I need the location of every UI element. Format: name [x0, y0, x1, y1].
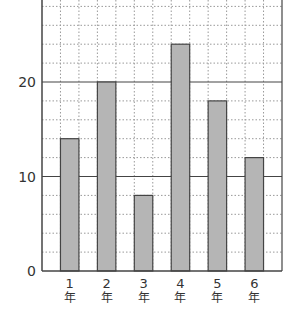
- y-tick-label: 0: [27, 263, 36, 279]
- x-tick-label-unit: 年: [101, 291, 113, 305]
- y-tick-labels: 01020: [18, 74, 36, 279]
- x-tick-label-number: 6: [250, 276, 258, 291]
- bar-chart: 01020 1年2年3年4年5年6年: [0, 0, 295, 317]
- x-tick-label-number: 3: [139, 276, 147, 291]
- y-tick-label: 10: [18, 169, 36, 185]
- x-tick-label-unit: 年: [211, 291, 223, 305]
- x-tick-label-unit: 年: [174, 291, 186, 305]
- y-tick-label: 20: [18, 74, 36, 90]
- x-tick-label-number: 1: [66, 276, 74, 291]
- x-tick-label-number: 2: [102, 276, 110, 291]
- x-tick-label-number: 4: [176, 276, 184, 291]
- bar-1年: [60, 139, 78, 271]
- bar-5年: [208, 101, 226, 271]
- bar-2年: [97, 82, 115, 271]
- bar-4年: [171, 44, 189, 271]
- minor-vertical-gridlines: [60, 0, 263, 271]
- bar-3年: [134, 195, 152, 271]
- bar-6年: [245, 158, 263, 271]
- x-tick-label-number: 5: [213, 276, 221, 291]
- x-tick-labels: 1年2年3年4年5年6年: [64, 276, 261, 305]
- x-tick-label-unit: 年: [64, 291, 76, 305]
- x-tick-label-unit: 年: [138, 291, 150, 305]
- x-tick-label-unit: 年: [248, 291, 260, 305]
